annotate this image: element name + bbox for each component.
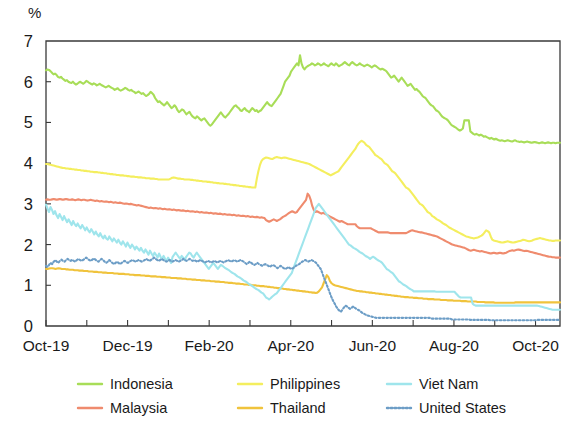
- plot-frame: [46, 41, 560, 326]
- y-tick-label: 2: [24, 236, 33, 254]
- x-tick-label: Apr-20: [267, 337, 314, 354]
- legend-label: Malaysia: [110, 400, 168, 416]
- x-axis-tick-marks: [46, 320, 536, 326]
- series-line: [46, 204, 560, 310]
- series-line: [46, 268, 560, 303]
- x-axis-tick-labels: Oct-19Dec-19Feb-20Apr-20Jun-20Aug-20Oct-…: [23, 337, 559, 354]
- legend-label: Indonesia: [110, 376, 174, 392]
- chart-legend: IndonesiaPhilippinesViet NamMalaysiaThai…: [78, 376, 506, 416]
- legend-label: Philippines: [270, 376, 340, 392]
- x-tick-label: Aug-20: [429, 337, 479, 354]
- series-lines: [46, 55, 560, 320]
- y-axis-tick-labels: 01234567: [24, 32, 33, 335]
- x-tick-label: Jun-20: [349, 337, 397, 354]
- y-tick-label: 0: [24, 317, 33, 335]
- y-axis-tick-marks: [46, 82, 51, 286]
- y-tick-label: 6: [24, 73, 33, 91]
- series-line: [46, 55, 560, 143]
- series-line: [46, 194, 560, 258]
- legend-label: United States: [419, 400, 506, 416]
- y-tick-label: 7: [24, 32, 33, 50]
- y-tick-label: 5: [24, 113, 33, 131]
- x-tick-label: Oct-20: [512, 337, 559, 354]
- series-line: [46, 258, 560, 321]
- line-chart-svg: 01234567 Oct-19Dec-19Feb-20Apr-20Jun-20A…: [0, 0, 578, 423]
- series-line: [46, 141, 560, 243]
- chart-figure: % 01234567 Oct-19Dec-19Feb-20Apr-20Jun-2…: [0, 0, 578, 423]
- x-tick-label: Oct-19: [23, 337, 70, 354]
- legend-label: Thailand: [270, 400, 326, 416]
- y-tick-label: 1: [24, 276, 33, 294]
- x-tick-label: Dec-19: [103, 337, 153, 354]
- legend-label: Viet Nam: [419, 376, 478, 392]
- x-tick-label: Feb-20: [185, 337, 234, 354]
- y-tick-label: 3: [24, 195, 33, 213]
- y-tick-label: 4: [24, 154, 33, 172]
